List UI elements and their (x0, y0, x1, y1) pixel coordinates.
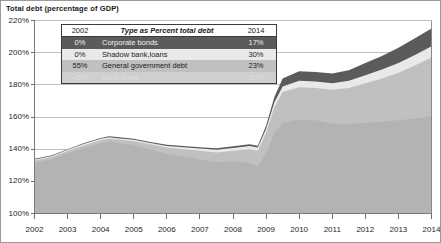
x-axis-tick-label: 2003 (51, 225, 85, 234)
legend-start-value: 0% (62, 50, 98, 59)
y-axis-tick-label: 200% (1, 48, 29, 57)
legend-series-label: Bank loans (98, 73, 236, 82)
legend-header-row: 2002 Type as Percent total debt 2014 (62, 25, 276, 37)
x-axis-tick-label: 2008 (216, 225, 250, 234)
legend-series-label: General government debt (98, 61, 236, 70)
x-axis-tick-label: 2013 (381, 225, 415, 234)
chart-legend: 2002 Type as Percent total debt 2014 0% … (61, 24, 277, 84)
y-axis-tick-label: 100% (1, 209, 29, 218)
x-axis-tick-label: 2007 (183, 225, 217, 234)
legend-header-title: Type as Percent total debt (98, 26, 236, 35)
legend-row-corporate-bonds: 0% Corporate bonds 17% (62, 37, 276, 49)
legend-series-label: Corporate bonds (98, 38, 236, 47)
x-axis-tick-label: 2014 (415, 225, 441, 234)
legend-end-value: 30% (236, 50, 276, 59)
y-axis-tick-label: 120% (1, 176, 29, 185)
y-axis-tick-label: 220% (1, 16, 29, 25)
legend-header-end-year: 2014 (236, 26, 276, 35)
legend-row-general-government-debt: 55% General government debt 23% (62, 60, 276, 72)
x-axis-tick-label: 2012 (348, 225, 382, 234)
legend-end-value: 30% (236, 73, 276, 82)
legend-row-shadow-bank-loans: 0% Shadow bank,loans 30% (62, 49, 276, 61)
legend-end-value: 17% (236, 38, 276, 47)
x-axis-tick-label: 2002 (18, 225, 52, 234)
legend-series-label: Shadow bank,loans (98, 50, 236, 59)
legend-row-bank-loans: 45% Bank loans 30% (62, 72, 276, 83)
legend-start-value: 55% (62, 61, 98, 70)
x-axis-tick-label: 2010 (282, 225, 316, 234)
x-axis-tick-label: 2011 (315, 225, 349, 234)
legend-start-value: 45% (62, 73, 98, 82)
legend-end-value: 23% (236, 61, 276, 70)
x-axis-tick-label: 2006 (150, 225, 184, 234)
chart-figure: Total debt (percentage of GDP) 100%120%1… (0, 0, 441, 243)
legend-header-start-year: 2002 (62, 26, 98, 35)
y-axis-tick-label: 160% (1, 112, 29, 121)
y-axis-tick-label: 140% (1, 144, 29, 153)
x-axis-tick-label: 2009 (249, 225, 283, 234)
x-axis-tick-label: 2005 (117, 225, 151, 234)
x-axis-tick-label: 2004 (84, 225, 118, 234)
legend-start-value: 0% (62, 38, 98, 47)
y-axis-tick-label: 180% (1, 80, 29, 89)
